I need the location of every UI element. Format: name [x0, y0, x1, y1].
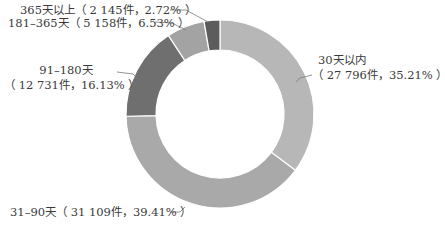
- label-31-90-days: 31–90天（ 31 109件，39.41% ）: [10, 205, 191, 219]
- label-91-180-days-name: 91–180天: [4, 63, 128, 77]
- label-30-days-value: （ 27 796件，35.21% ）: [312, 68, 445, 82]
- label-30-days-name: 30天以内: [318, 53, 366, 67]
- label-91-180-days-value: （ 12 731件，16.13% ）: [4, 78, 128, 92]
- donut-slice: [220, 20, 314, 170]
- donut-slice: [126, 116, 295, 208]
- label-181-365-days: 181–365天（ 5 158件，6.53% ）: [8, 16, 189, 30]
- label-365-plus-days: 365天以上（ 2 145件，2.72% ）: [20, 3, 196, 17]
- donut-slices: [126, 20, 314, 208]
